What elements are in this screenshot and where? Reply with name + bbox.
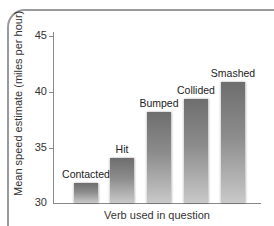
bar-smashed <box>221 82 245 203</box>
bar-label-bumped: Bumped <box>129 97 189 109</box>
y-tick-label-40: 40 <box>25 85 47 97</box>
y-axis-label: Mean speed estimate (miles per hour) <box>12 36 24 196</box>
bar-label-collided: Collided <box>166 84 226 96</box>
x-axis-line <box>53 203 261 204</box>
bar-label-smashed: Smashed <box>203 67 263 79</box>
y-tick-label-30: 30 <box>25 196 47 208</box>
bar-hit <box>110 158 134 203</box>
y-tick-40 <box>49 92 53 93</box>
bar-bumped <box>147 112 171 203</box>
y-tick-label-35: 35 <box>25 141 47 153</box>
bar-label-contacted: Contacted <box>56 168 116 180</box>
y-axis-line <box>53 32 54 203</box>
y-tick-45 <box>49 36 53 37</box>
bar-contacted <box>74 183 98 203</box>
x-axis-label: Verb used in question <box>53 209 261 221</box>
y-tick-label-45: 45 <box>25 29 47 41</box>
y-tick-35 <box>49 148 53 149</box>
bar-collided <box>184 99 208 203</box>
bar-label-hit: Hit <box>92 143 152 155</box>
